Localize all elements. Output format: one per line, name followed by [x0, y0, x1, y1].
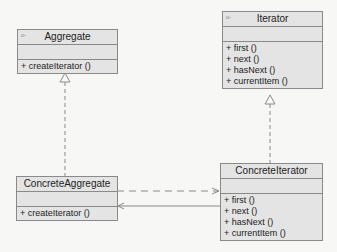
class-name: ConcreteAggregate: [24, 178, 111, 189]
operation: + currentItem (): [224, 228, 319, 239]
attributes-compartment: [223, 27, 322, 42]
class-aggregate[interactable]: o-Aggregate + createIterator (): [17, 29, 118, 74]
operation: + createIterator (): [20, 208, 114, 219]
operations-compartment: + first () + next () + hasNext () + curr…: [223, 42, 322, 88]
attributes-compartment: [221, 179, 322, 194]
operation: + first (): [226, 43, 319, 54]
interface-icon: o-: [21, 30, 26, 40]
operation: + next (): [226, 54, 319, 65]
operation: + hasNext (): [226, 65, 319, 76]
operations-compartment: + createIterator (): [18, 60, 117, 73]
operation: + first (): [224, 195, 319, 206]
operation: + next (): [224, 206, 319, 217]
realization-arrowhead-icon: [265, 95, 275, 104]
operation: + createIterator (): [21, 61, 114, 72]
attributes-compartment: [18, 45, 117, 60]
operations-compartment: + first () + next () + hasNext () + curr…: [221, 194, 322, 240]
class-iterator[interactable]: o-Iterator + first () + next () + hasNex…: [222, 11, 323, 89]
operations-compartment: + createIterator (): [17, 207, 117, 220]
operation: + currentItem (): [226, 76, 319, 87]
realization-arrowhead-icon: [60, 73, 70, 82]
class-concrete-aggregate[interactable]: ConcreteAggregate + createIterator (): [16, 176, 118, 221]
operation: + hasNext (): [224, 217, 319, 228]
class-name: Aggregate: [44, 31, 90, 42]
class-concrete-iterator[interactable]: ConcreteIterator + first () + next () + …: [220, 163, 323, 241]
class-name: ConcreteIterator: [235, 165, 307, 176]
class-name: Iterator: [257, 13, 289, 24]
interface-icon: o-: [226, 12, 231, 22]
attributes-compartment: [17, 192, 117, 207]
